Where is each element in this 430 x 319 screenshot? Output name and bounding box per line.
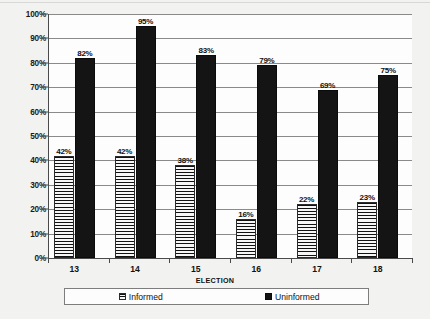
y-axis-tick-label: 90% [0,34,46,43]
y-axis-tick-label: 60% [0,107,46,116]
y-axis-tick-mark [42,111,48,112]
bar-value-label: 95% [138,17,153,26]
x-axis-tick-label: 14 [130,264,140,274]
legend-item-uninformed[interactable]: Uninformed [217,292,369,302]
y-axis-tick-label: 20% [0,205,46,214]
y-axis-tick-mark [42,62,48,63]
bar-informed-17: 22% [297,204,317,258]
gridline [49,63,412,64]
chart-legend: Informed Uninformed [64,288,369,305]
bar-value-label: 82% [77,49,92,58]
bar-value-label: 69% [320,81,335,90]
y-axis-tick-label: 0% [0,254,46,263]
bar-uninformed-14: 95% [136,26,156,258]
y-axis-tick-mark [42,14,48,15]
gridline [49,87,412,88]
x-axis-tick-mark [291,258,292,263]
y-axis-tick-mark [42,38,48,39]
x-axis-tick-mark [109,258,110,263]
legend-swatch-informed-icon [119,293,126,300]
y-axis-tick-label: 30% [0,180,46,189]
bar-value-label: 75% [381,66,396,75]
bar-value-label: 22% [299,195,314,204]
gridline [49,160,412,161]
x-axis-tick-mark [169,258,170,263]
x-axis-tick-label: 18 [373,264,383,274]
legend-label-uninformed: Uninformed [275,292,319,302]
y-axis-tick-mark [42,209,48,210]
x-axis-tick-mark [230,258,231,263]
bar-value-label: 42% [56,147,71,156]
bar-value-label: 83% [199,46,214,55]
bar-value-label: 16% [238,210,253,219]
bar-informed-16: 16% [236,219,256,258]
bar-uninformed-17: 69% [318,90,338,258]
bar-value-label: 42% [117,147,132,156]
bar-informed-13: 42% [54,156,74,258]
bar-informed-15: 38% [175,165,195,258]
y-axis-tick-label: 40% [0,156,46,165]
y-axis-tick-mark [42,233,48,234]
x-axis-title: ELECTION [0,276,430,285]
bar-value-label: 79% [259,56,274,65]
gridline [49,185,412,186]
bar-uninformed-18: 75% [378,75,398,258]
y-axis-tick-label: 10% [0,229,46,238]
gridline [49,112,412,113]
y-axis-tick-mark [42,184,48,185]
bar-informed-14: 42% [115,156,135,258]
x-axis-tick-mark [48,258,49,263]
bar-uninformed-16: 79% [257,65,277,258]
gridline [49,38,412,39]
y-axis-tick-label: 100% [0,10,46,19]
bar-value-label: 23% [360,193,375,202]
bar-uninformed-13: 82% [75,58,95,258]
y-axis-tick-label: 80% [0,58,46,67]
x-axis-tick-mark [351,258,352,263]
bar-uninformed-15: 83% [196,55,216,258]
gridline [49,14,412,15]
x-axis-tick-label: 17 [312,264,322,274]
page-top-rule [0,2,430,3]
x-axis-tick-label: 15 [191,264,201,274]
bar-chart: 100%90%80%70%60%50%40%30%20%10%0% 42%82%… [0,0,430,319]
x-axis-tick-label: 16 [252,264,262,274]
x-axis-tick-label: 13 [70,264,80,274]
y-axis-tick-label: 50% [0,132,46,141]
y-axis-tick-mark [42,160,48,161]
bar-value-label: 38% [178,156,193,165]
gridline [49,136,412,137]
legend-item-informed[interactable]: Informed [65,292,217,302]
legend-label-informed: Informed [129,292,163,302]
x-axis-tick-mark [412,258,413,263]
y-axis-tick-label: 70% [0,83,46,92]
y-axis-tick-mark [42,136,48,137]
legend-swatch-uninformed-icon [265,293,272,300]
bar-informed-18: 23% [357,202,377,258]
y-axis-tick-mark [42,87,48,88]
